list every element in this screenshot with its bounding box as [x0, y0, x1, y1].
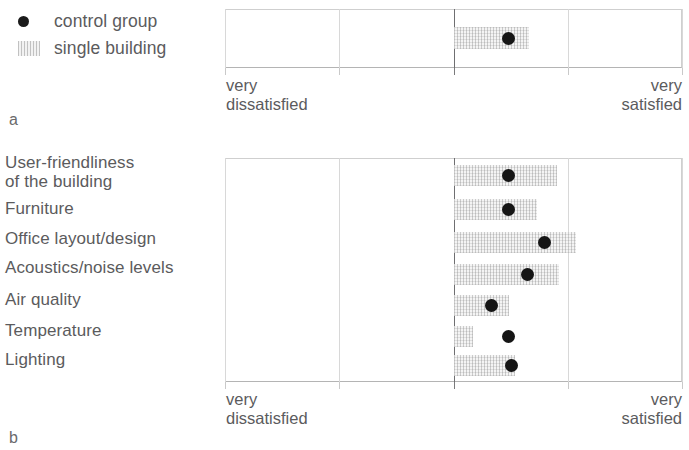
legend-marker-wrap — [18, 16, 48, 27]
category-label: Temperature — [5, 321, 102, 340]
axis-tick — [454, 382, 455, 389]
category-label: Acoustics/noise levels — [5, 258, 174, 277]
legend-item-control-group: control group — [18, 8, 218, 35]
range-band-bar — [454, 264, 559, 285]
hatched-band-marker-icon — [18, 41, 40, 56]
data-point-dot — [485, 299, 498, 312]
panel-letter-a: a — [9, 112, 18, 128]
axis-tick — [568, 68, 569, 75]
gridline — [225, 9, 226, 68]
range-band-bar — [454, 199, 537, 220]
range-band-bar — [454, 232, 576, 253]
chart-panel-a — [225, 9, 682, 68]
axis-caption-right-b: very satisfied — [621, 390, 682, 428]
filled-circle-marker-icon — [18, 16, 29, 27]
category-label: Furniture — [5, 199, 74, 218]
gridline — [568, 158, 569, 382]
data-point-dot — [502, 330, 515, 343]
gridline — [682, 9, 683, 68]
axis-tick — [568, 382, 569, 389]
axis-tick — [225, 382, 226, 389]
legend-item-single-building: single building — [18, 35, 218, 62]
axis-tick — [682, 382, 683, 389]
category-label: User-friendliness of the building — [5, 153, 134, 191]
legend: control group single building — [18, 8, 218, 62]
axis-tick — [682, 68, 683, 75]
range-band-bar — [454, 326, 473, 347]
chart-panel-b — [225, 158, 682, 382]
data-point-dot — [538, 236, 551, 249]
data-point-dot — [502, 169, 515, 182]
axis-tick — [339, 382, 340, 389]
range-band-bar — [454, 295, 509, 316]
panel-letter-b: b — [9, 430, 18, 446]
data-point-dot — [505, 359, 518, 372]
axis-caption-left-a: very dissatisfied — [226, 76, 308, 114]
data-point-dot — [502, 203, 515, 216]
gridline — [339, 9, 340, 68]
gridline — [225, 158, 226, 382]
axis-tick — [454, 68, 455, 75]
data-point-dot — [502, 32, 515, 45]
axis-tick — [225, 68, 226, 75]
legend-label-single-building: single building — [48, 40, 166, 58]
gridline — [682, 158, 683, 382]
category-label: Air quality — [5, 290, 81, 309]
data-point-dot — [521, 268, 534, 281]
category-label: Office layout/design — [5, 229, 156, 248]
axis-caption-right-a: very satisfied — [621, 76, 682, 114]
gridline — [568, 9, 569, 68]
range-band-bar — [454, 27, 529, 49]
legend-label-control-group: control group — [48, 13, 157, 31]
legend-marker-wrap — [18, 41, 48, 56]
category-label: Lighting — [5, 350, 65, 369]
axis-caption-left-b: very dissatisfied — [226, 390, 308, 428]
gridline — [339, 158, 340, 382]
axis-tick — [339, 68, 340, 75]
figure-canvas: control group single building a b very d… — [0, 0, 689, 450]
